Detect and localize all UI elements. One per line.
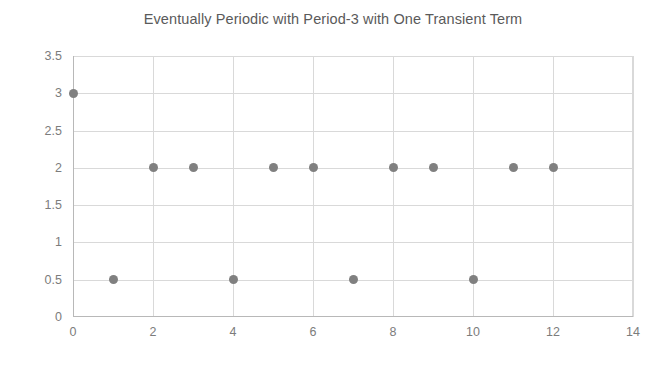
x-tick-label: 12 [546, 325, 560, 339]
x-tick-label: 2 [150, 325, 157, 339]
gridline-horizontal [73, 242, 633, 243]
y-tick-label: 1.5 [45, 198, 62, 212]
gridline-vertical [553, 56, 554, 317]
gridline-vertical [393, 56, 394, 317]
x-tick-label: 8 [390, 325, 397, 339]
x-tick-label: 6 [310, 325, 317, 339]
x-axis-line [73, 316, 633, 317]
y-tick-label: 2.5 [45, 124, 62, 138]
data-point [509, 163, 518, 172]
y-tick-label: 2 [55, 161, 62, 175]
gridline-horizontal [73, 205, 633, 206]
gridline-horizontal [73, 131, 633, 132]
y-tick-label: 0.5 [45, 273, 62, 287]
y-tick-label: 1 [55, 235, 62, 249]
y-tick-label: 0 [55, 310, 62, 324]
data-point [149, 163, 158, 172]
x-tick-label: 0 [70, 325, 77, 339]
y-tick-label: 3 [55, 86, 62, 100]
data-point [549, 163, 558, 172]
data-point [189, 163, 198, 172]
plot-border-right [632, 56, 633, 317]
y-tick-label: 3.5 [45, 49, 62, 63]
data-point [109, 275, 118, 284]
x-tick-label: 14 [626, 325, 640, 339]
chart-figure: Eventually Periodic with Period-3 with O… [0, 0, 666, 365]
data-point [429, 163, 438, 172]
gridline-vertical [313, 56, 314, 317]
x-tick-label: 10 [466, 325, 480, 339]
data-point [269, 163, 278, 172]
data-point [309, 163, 318, 172]
plot-border-top [73, 56, 633, 57]
gridline-horizontal [73, 93, 633, 94]
data-point [349, 275, 358, 284]
gridline-vertical [633, 56, 634, 317]
data-point [469, 275, 478, 284]
data-point [389, 163, 398, 172]
gridline-vertical [153, 56, 154, 317]
chart-title: Eventually Periodic with Period-3 with O… [0, 11, 666, 27]
x-tick-label: 4 [230, 325, 237, 339]
data-point [69, 89, 78, 98]
plot-area [73, 56, 633, 317]
data-point [229, 275, 238, 284]
